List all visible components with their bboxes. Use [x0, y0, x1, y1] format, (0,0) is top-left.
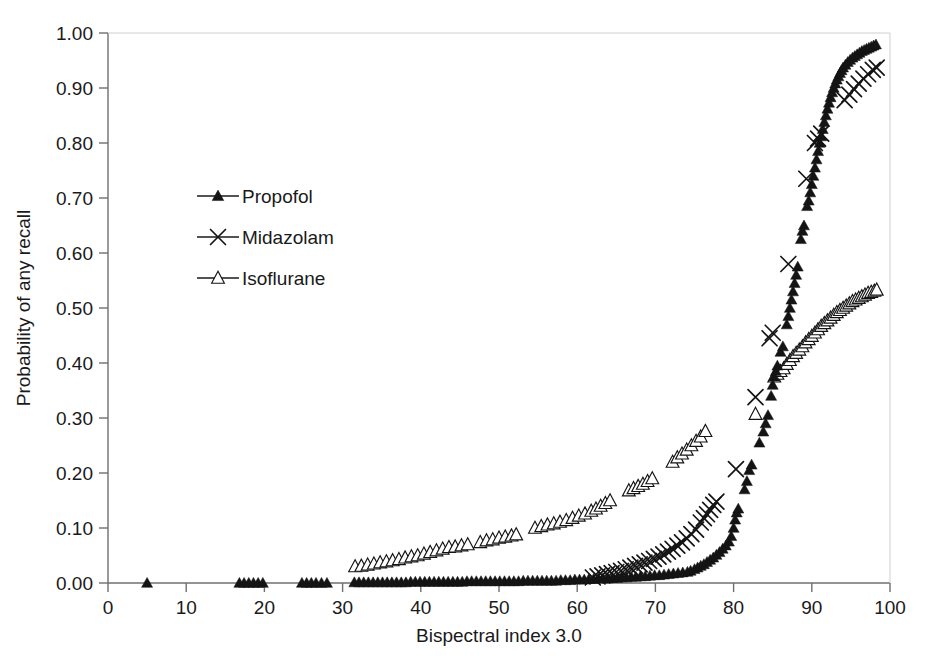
y-tick-label: 0.50	[56, 298, 93, 319]
x-tick-label: 90	[801, 597, 822, 618]
legend-label-propofol: Propofol	[242, 186, 313, 207]
x-tick-label: 60	[567, 597, 588, 618]
x-axis-title: Bispectral index 3.0	[416, 625, 582, 646]
y-tick-label: 0.20	[56, 463, 93, 484]
x-tick-label: 50	[488, 597, 509, 618]
legend-label-midazolam: Midazolam	[242, 227, 334, 248]
y-tick-label: 0.00	[56, 573, 93, 594]
chart-figure: 0.000.100.200.300.400.500.600.700.800.90…	[0, 0, 929, 664]
chart-canvas: 0.000.100.200.300.400.500.600.700.800.90…	[0, 0, 929, 664]
y-tick-label: 0.90	[56, 78, 93, 99]
y-tick-label: 0.10	[56, 518, 93, 539]
y-tick-label: 1.00	[56, 23, 93, 44]
x-tick-label: 40	[410, 597, 431, 618]
x-tick-label: 100	[874, 597, 906, 618]
y-tick-label: 0.30	[56, 408, 93, 429]
x-tick-label: 10	[176, 597, 197, 618]
x-tick-label: 80	[723, 597, 744, 618]
figure-background	[0, 0, 929, 664]
y-tick-label: 0.70	[56, 188, 93, 209]
y-axis-title: Probability of any recall	[13, 210, 34, 406]
x-tick-label: 70	[645, 597, 666, 618]
x-tick-label: 30	[332, 597, 353, 618]
x-tick-label: 0	[103, 597, 114, 618]
y-tick-label: 0.60	[56, 243, 93, 264]
y-tick-label: 0.40	[56, 353, 93, 374]
y-tick-label: 0.80	[56, 133, 93, 154]
x-tick-label: 20	[254, 597, 275, 618]
legend-label-isoflurane: Isoflurane	[242, 268, 325, 289]
